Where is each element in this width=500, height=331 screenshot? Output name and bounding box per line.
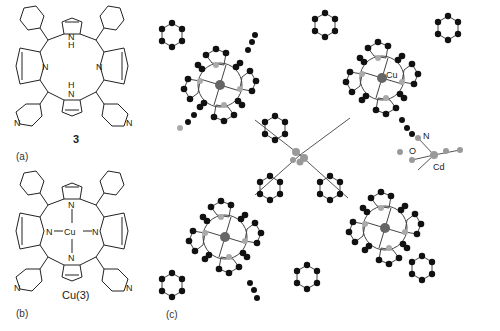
- panel-label-a: (a): [16, 151, 28, 162]
- compound-label-cu3: Cu(3): [62, 289, 90, 301]
- svg-text:N: N: [14, 118, 21, 128]
- atom-label-cd: Cd: [433, 162, 445, 172]
- svg-text:N: N: [42, 62, 49, 72]
- panel-label-c: (c): [166, 309, 178, 320]
- panel-b-structure: N N Cu N N N N: [0, 165, 150, 331]
- svg-text:N: N: [126, 118, 133, 128]
- atom-label-n: N: [423, 131, 430, 141]
- panel-label-b: (b): [16, 308, 28, 319]
- ball-and-stick-model: N O Cd Cu: [150, 0, 500, 331]
- svg-text:N: N: [68, 89, 75, 99]
- atom-label-o: O: [409, 146, 416, 156]
- svg-text:N: N: [126, 283, 133, 293]
- svg-text:N: N: [96, 62, 103, 72]
- compound-label-3: 3: [73, 133, 79, 145]
- svg-text:H: H: [68, 40, 75, 50]
- svg-text:N: N: [46, 227, 53, 237]
- porphyrin-unit-bottom-right: [346, 189, 425, 268]
- svg-text:N: N: [68, 200, 75, 210]
- atom-label-cu: Cu: [386, 70, 398, 80]
- panel-c-crystal-structure: N O Cd Cu: [150, 0, 500, 331]
- cu-center-label: Cu: [64, 227, 76, 237]
- svg-text:N: N: [68, 253, 75, 263]
- cu-porphyrin-drawing: N N Cu N N N N: [0, 165, 150, 331]
- svg-text:N: N: [92, 227, 99, 237]
- svg-text:N: N: [14, 283, 21, 293]
- porphyrin-unit-bottom-left: [186, 198, 265, 277]
- porphyrin-unit-top-right: [343, 39, 422, 118]
